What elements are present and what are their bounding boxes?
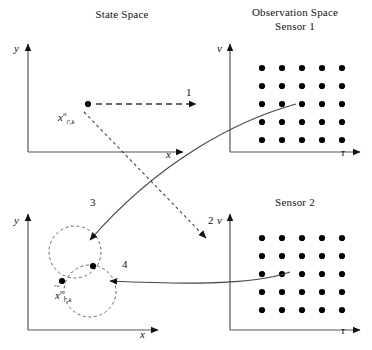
- axis-label-tau-sensor-2: τ: [341, 324, 345, 336]
- point-subscript: l',k: [63, 296, 71, 304]
- state-space-lower-axes: [28, 214, 158, 330]
- connection-3-curve: [90, 104, 296, 240]
- axis-label-y-lower: y: [14, 214, 19, 226]
- axis-label-y-upper: y: [14, 42, 19, 54]
- sensor-2-title: Sensor 2: [225, 196, 365, 208]
- axis-label-tau-sensor-1: τ: [341, 146, 345, 158]
- state-point-upper-label: xnl',k: [58, 110, 75, 126]
- state-point-lower-b: [90, 263, 96, 269]
- point-base: x: [55, 289, 60, 301]
- sensor-2-dot-grid: [259, 235, 345, 313]
- axis-label-v-sensor-1: v: [217, 42, 222, 54]
- connection-1-label: 1: [186, 86, 192, 98]
- axis-label-x-upper: x: [166, 148, 171, 160]
- state-space-title: State Space: [62, 8, 182, 20]
- connection-4-label: 4: [122, 258, 128, 270]
- sensor-1-dot-grid: [259, 65, 345, 143]
- state-point-upper: [85, 101, 91, 107]
- axis-label-v-sensor-2: v: [217, 214, 222, 226]
- point-superscript: n: [60, 288, 64, 296]
- state-space-upper-axes: [28, 44, 183, 152]
- point-superscript: n: [63, 110, 67, 118]
- observation-space-title: Observation Space: [225, 6, 365, 18]
- point-subscript: l',k: [66, 118, 74, 126]
- connection-3-label: 3: [90, 196, 96, 208]
- state-point-lower-label: xnl',k: [55, 288, 72, 304]
- sensor-1-axes: [230, 44, 360, 152]
- sensor-1-title: Sensor 1: [225, 20, 365, 32]
- connection-2-arrow: [84, 112, 206, 238]
- axis-label-x-lower: x: [140, 328, 145, 340]
- diagram-canvas: State Space Observation Space Sensor 1 S…: [0, 0, 372, 350]
- connection-2-label: 2: [208, 214, 214, 226]
